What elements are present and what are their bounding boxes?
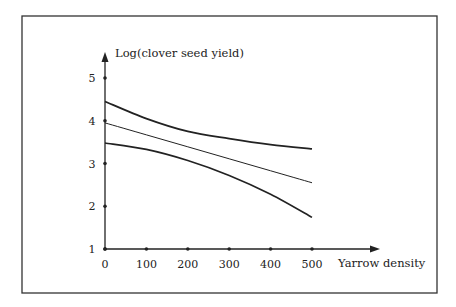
y-tick-label: 3 bbox=[89, 158, 96, 171]
y-tick bbox=[103, 204, 107, 208]
series-line-1 bbox=[105, 123, 312, 183]
y-tick bbox=[103, 162, 107, 166]
y-axis-title: Log(clover seed yield) bbox=[115, 46, 244, 60]
x-tick-label: 200 bbox=[177, 258, 198, 271]
x-tick-label: 500 bbox=[302, 258, 323, 271]
series-line-2 bbox=[105, 143, 312, 217]
x-tick bbox=[310, 247, 314, 251]
x-tick bbox=[186, 247, 190, 251]
y-tick bbox=[103, 119, 107, 123]
x-axis-title: Yarrow density bbox=[337, 256, 426, 270]
x-axis-arrow-icon bbox=[370, 246, 380, 253]
y-tick-label: 1 bbox=[89, 243, 96, 256]
x-tick-label: 400 bbox=[260, 258, 281, 271]
y-tick bbox=[103, 247, 107, 251]
y-axis-arrow-icon bbox=[102, 52, 109, 62]
x-tick-label: 100 bbox=[136, 258, 157, 271]
chart: 010020030040050012345Log(clover seed yie… bbox=[0, 0, 456, 307]
series-line-0 bbox=[105, 102, 312, 149]
y-tick-label: 5 bbox=[89, 72, 96, 85]
x-tick bbox=[227, 247, 231, 251]
x-tick-label: 300 bbox=[219, 258, 240, 271]
y-tick bbox=[103, 76, 107, 80]
y-tick-label: 2 bbox=[89, 200, 96, 213]
x-tick bbox=[145, 247, 149, 251]
y-tick-label: 4 bbox=[89, 115, 96, 128]
x-tick-label: 0 bbox=[102, 258, 109, 271]
x-tick bbox=[269, 247, 273, 251]
